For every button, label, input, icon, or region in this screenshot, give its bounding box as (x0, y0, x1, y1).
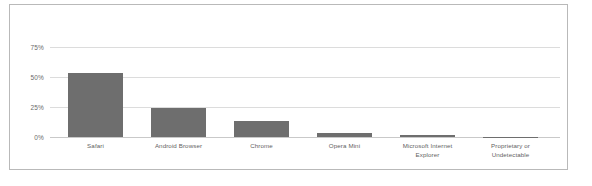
bar-slot-safari (68, 18, 123, 137)
x-axis-label-chrome: Chrome (224, 142, 299, 151)
x-axis-label-proprietary-or-undetectable: Proprietary or Undetectable (475, 142, 546, 159)
bar-series (50, 18, 560, 137)
x-axis-label-safari: Safari (58, 142, 133, 151)
y-axis-label-50: 50% (30, 74, 44, 81)
bar-slot-proprietary-or-undetectable (483, 18, 538, 137)
chart-frame: 75% 50% 25% 0% (9, 4, 568, 170)
x-axis-label-microsoft-internet-explorer: Microsoft Internet Explorer (392, 142, 463, 159)
y-axis-label-25: 25% (30, 104, 44, 111)
bar-slot-chrome (234, 18, 289, 137)
bar-slot-android-browser (151, 18, 206, 137)
plot-area: 75% 50% 25% 0% (50, 18, 560, 137)
bar-chrome[interactable] (234, 121, 289, 137)
bar-slot-opera-mini (317, 18, 372, 137)
bar-android-browser[interactable] (151, 108, 206, 137)
y-axis-label-75: 75% (30, 44, 44, 51)
x-axis-label-opera-mini: Opera Mini (307, 142, 382, 151)
bar-slot-microsoft-internet-explorer (400, 18, 455, 137)
x-axis-label-android-browser: Android Browser (141, 142, 216, 151)
bar-opera-mini[interactable] (317, 133, 372, 137)
y-axis-label-0: 0% (34, 134, 44, 141)
gridline-0-baseline: 0% (50, 137, 560, 138)
bar-safari[interactable] (68, 73, 123, 137)
bar-microsoft-internet-explorer[interactable] (400, 135, 455, 137)
